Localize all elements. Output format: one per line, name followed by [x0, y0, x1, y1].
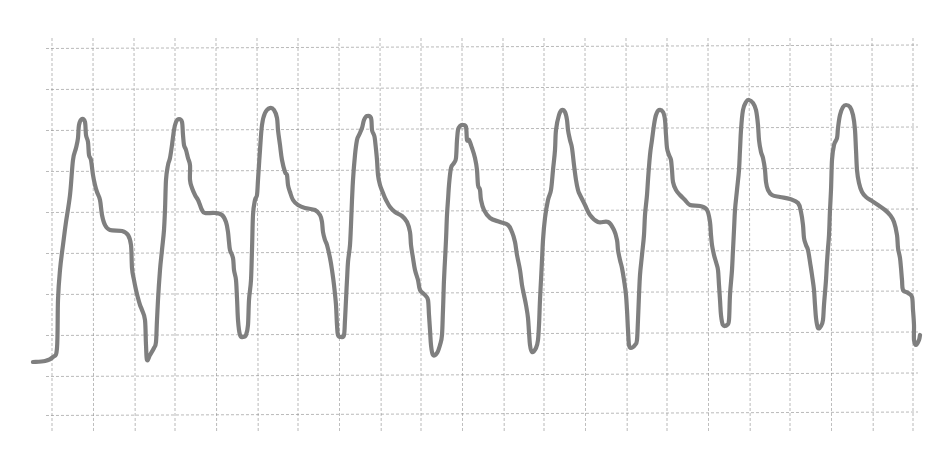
grid-line-horizontal	[46, 168, 918, 172]
grid-line-horizontal	[46, 332, 918, 336]
grid-line-vertical	[257, 38, 258, 432]
grid-line-vertical	[216, 38, 217, 432]
grid-line-vertical	[462, 38, 463, 432]
grid-line-vertical	[749, 38, 750, 432]
grid-line-horizontal	[46, 86, 918, 90]
grid	[46, 38, 918, 432]
grid-line-vertical	[134, 38, 135, 432]
waveform-chart: Periodic waveform (pressure/pulse-like t…	[0, 0, 950, 450]
waveform-plot-area	[0, 0, 950, 450]
grid-line-vertical	[93, 38, 94, 432]
grid-line-horizontal	[46, 45, 918, 49]
grid-line-vertical	[626, 38, 627, 432]
grid-line-horizontal	[46, 412, 918, 416]
grid-line-vertical	[339, 38, 340, 432]
grid-line-horizontal	[46, 250, 918, 254]
grid-line-vertical	[585, 38, 586, 432]
grid-line-vertical	[380, 38, 381, 432]
grid-line-horizontal	[46, 291, 918, 295]
grid-line-horizontal	[46, 373, 918, 377]
waveform-trace	[33, 100, 920, 362]
grid-line-horizontal	[46, 127, 918, 131]
grid-line-vertical	[503, 38, 504, 432]
grid-line-vertical	[708, 38, 709, 432]
